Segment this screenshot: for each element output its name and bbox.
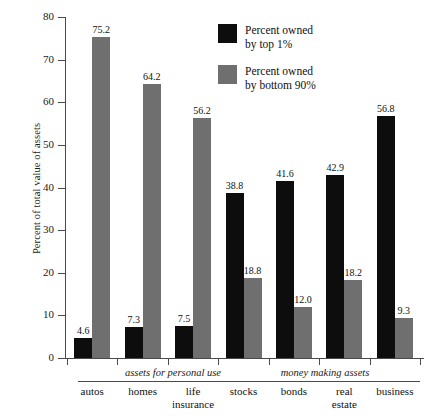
x-separator-tick-7 — [420, 359, 421, 365]
y-tick-label-50: 50 — [28, 138, 54, 150]
bar-value-business-bottom90: 9.3 — [387, 305, 421, 316]
y-tick-label-80: 80 — [28, 10, 54, 22]
y-tick-50 — [58, 145, 65, 146]
legend-item-bottom-90-percent: Percent owned by bottom 90% — [218, 65, 316, 92]
y-tick-label-60: 60 — [28, 95, 54, 107]
x-separator-tick-4 — [269, 359, 270, 365]
y-tick-label-30: 30 — [28, 223, 54, 235]
bar-value-business-top1: 56.8 — [369, 103, 403, 114]
bar-business-top1 — [377, 116, 395, 358]
y-tick-label-10: 10 — [28, 308, 54, 320]
x-separator-tick-5 — [319, 359, 320, 365]
bar-chart: Percent of total value of assets 0102030… — [0, 0, 424, 418]
bar-value-real-estate-bottom90: 18.2 — [336, 267, 370, 278]
bar-autos-top1 — [74, 338, 92, 358]
y-tick-40 — [58, 188, 65, 189]
bar-life-insurance-top1 — [175, 326, 193, 358]
bar-value-autos-bottom90: 75.2 — [84, 24, 118, 35]
bar-value-life-insurance-bottom90: 56.2 — [185, 105, 219, 116]
x-separator-tick-0 — [67, 359, 68, 365]
chart-legend: Percent owned by top 1% Percent owned by… — [218, 24, 316, 106]
legend-swatch-top-1-percent — [218, 24, 237, 43]
bar-business-bottom90 — [395, 318, 413, 358]
x-separator-tick-6 — [370, 359, 371, 365]
y-tick-20 — [58, 273, 65, 274]
bar-life-insurance-bottom90 — [193, 118, 211, 358]
bar-autos-bottom90 — [92, 37, 110, 358]
bar-value-stocks-bottom90: 18.8 — [236, 265, 270, 276]
bar-value-stocks-top1: 38.8 — [218, 180, 252, 191]
bar-homes-bottom90 — [143, 84, 161, 358]
y-tick-0 — [58, 358, 65, 359]
legend-label-top-1-percent: Percent owned by top 1% — [245, 24, 313, 51]
bar-value-bonds-top1: 41.6 — [268, 168, 302, 179]
y-tick-10 — [58, 315, 65, 316]
bar-value-homes-bottom90: 64.2 — [135, 71, 169, 82]
bar-value-real-estate-top1: 42.9 — [318, 162, 352, 173]
y-tick-60 — [58, 102, 65, 103]
y-tick-label-0: 0 — [28, 351, 54, 363]
bar-bonds-bottom90 — [294, 307, 312, 358]
y-tick-label-40: 40 — [28, 181, 54, 193]
y-tick-30 — [58, 230, 65, 231]
y-tick-70 — [58, 60, 65, 61]
y-tick-label-20: 20 — [28, 266, 54, 278]
x-separator-tick-3 — [218, 359, 219, 365]
bar-real-estate-bottom90 — [344, 280, 362, 358]
category-label-business: business — [361, 385, 424, 398]
bar-stocks-bottom90 — [244, 278, 262, 358]
legend-item-top-1-percent: Percent owned by top 1% — [218, 24, 316, 51]
bar-homes-top1 — [125, 327, 143, 358]
legend-label-bottom-90-percent: Percent owned by bottom 90% — [245, 65, 316, 92]
x-separator-tick-2 — [168, 359, 169, 365]
group-label-money-making: money making assets — [230, 367, 420, 378]
x-separator-tick-1 — [117, 359, 118, 365]
bar-bonds-top1 — [276, 181, 294, 358]
group-rule-money-making — [230, 381, 420, 382]
y-tick-80 — [58, 17, 65, 18]
y-tick-label-70: 70 — [28, 53, 54, 65]
legend-swatch-bottom-90-percent — [218, 65, 237, 84]
bar-value-bonds-bottom90: 12.0 — [286, 294, 320, 305]
